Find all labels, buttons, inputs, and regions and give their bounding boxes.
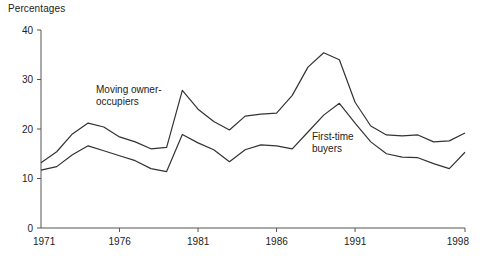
y-tick-label: 20 bbox=[22, 124, 34, 135]
x-axis: 197119761981198619911998 bbox=[33, 228, 469, 247]
y-axis-ticks: 010203040 bbox=[22, 25, 41, 234]
data-series-group bbox=[41, 53, 465, 172]
x-tick-label: 1976 bbox=[109, 236, 132, 247]
y-axis: 010203040 bbox=[22, 25, 41, 234]
x-axis-ticks: 197119761981198619911998 bbox=[33, 228, 469, 247]
line-chart-plot: 010203040 197119761981198619911998 bbox=[0, 0, 485, 258]
chart-page: Percentages 010203040 197119761981198619… bbox=[0, 0, 485, 258]
x-tick-label: 1971 bbox=[33, 236, 56, 247]
y-tick-label: 40 bbox=[22, 25, 34, 36]
series-line-first-time-buyers bbox=[41, 103, 465, 171]
y-tick-label: 0 bbox=[27, 223, 33, 234]
x-tick-label: 1981 bbox=[187, 236, 210, 247]
x-tick-label: 1998 bbox=[447, 236, 470, 247]
series-label-first-time-buyers: First-time buyers bbox=[312, 131, 354, 154]
x-tick-label: 1991 bbox=[344, 236, 367, 247]
series-label-moving-owner-occupiers: Moving owner- occupiers bbox=[96, 84, 162, 107]
y-tick-label: 10 bbox=[22, 173, 34, 184]
series-line-moving-owner-occupiers bbox=[41, 53, 465, 163]
x-tick-label: 1986 bbox=[266, 236, 289, 247]
y-tick-label: 30 bbox=[22, 74, 34, 85]
